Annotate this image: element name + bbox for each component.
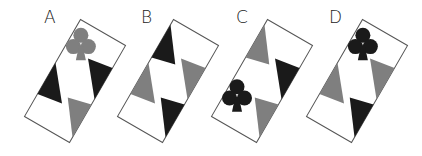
cards-canvas — [0, 0, 422, 156]
card-option-a — [17, 15, 126, 143]
card-option-b — [117, 20, 218, 143]
card-option-d — [299, 15, 408, 143]
card-option-c — [203, 15, 312, 143]
card-options-diagram: A B C D — [0, 0, 422, 156]
